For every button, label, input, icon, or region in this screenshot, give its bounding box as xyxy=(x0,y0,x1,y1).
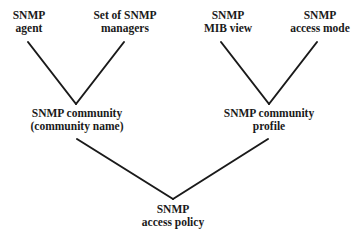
edge-profile-policy xyxy=(173,139,268,199)
edge-managers-community xyxy=(76,42,124,104)
snmp-access-policy-diagram: SNMP agent Set of SNMP managers SNMP MIB… xyxy=(0,0,361,241)
edge-mibview-profile xyxy=(221,42,269,104)
node-snmp-access-policy: SNMP access policy xyxy=(130,203,216,229)
node-snmp-mib-view: SNMP MIB view xyxy=(200,9,256,35)
edge-agent-community xyxy=(28,42,76,104)
node-snmp-agent: SNMP agent xyxy=(10,9,48,35)
edge-community-policy xyxy=(77,139,173,199)
edge-accessmode-profile xyxy=(269,42,317,104)
node-snmp-access-mode: SNMP access mode xyxy=(285,9,355,35)
node-snmp-community-profile: SNMP community profile xyxy=(214,107,324,133)
node-snmp-community: SNMP community (community name) xyxy=(20,107,134,133)
node-set-of-snmp-managers: Set of SNMP managers xyxy=(90,9,160,35)
